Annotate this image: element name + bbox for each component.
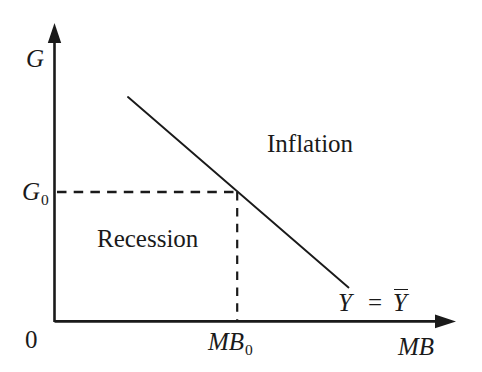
recession-region-label: Recession bbox=[97, 226, 198, 251]
curve-label-suffix: Y bbox=[393, 289, 407, 316]
inflation-region-label: Inflation bbox=[267, 131, 353, 156]
x-tick-subscript: 0 bbox=[245, 341, 253, 358]
figure-canvas: G MB 0 G0 MB0 Recession Inflation Y = Y bbox=[0, 0, 482, 372]
curve-label-equals-sign: = bbox=[368, 289, 382, 316]
diagram-svg bbox=[0, 0, 482, 372]
curve-label-prefix: Y bbox=[338, 289, 352, 316]
x-axis-label: MB bbox=[398, 334, 434, 359]
y-axis-arrow-icon bbox=[48, 23, 61, 43]
y-tick-label-g0: G0 bbox=[22, 179, 49, 204]
curve-label-spacer bbox=[385, 289, 390, 316]
x-tick-label-mb0: MB0 bbox=[208, 329, 253, 354]
y-tick-subscript: 0 bbox=[41, 191, 49, 208]
x-tick-symbol: MB bbox=[208, 328, 244, 355]
y-axis-label: G bbox=[26, 46, 44, 71]
x-axis-arrow-icon bbox=[435, 315, 456, 329]
y-tick-symbol: G bbox=[22, 178, 40, 205]
output-curve-label: Y = Y bbox=[338, 290, 407, 315]
curve-label-suffix-overbar: Y bbox=[393, 290, 407, 315]
curve-label-equals bbox=[357, 289, 362, 316]
origin-label: 0 bbox=[25, 327, 38, 352]
